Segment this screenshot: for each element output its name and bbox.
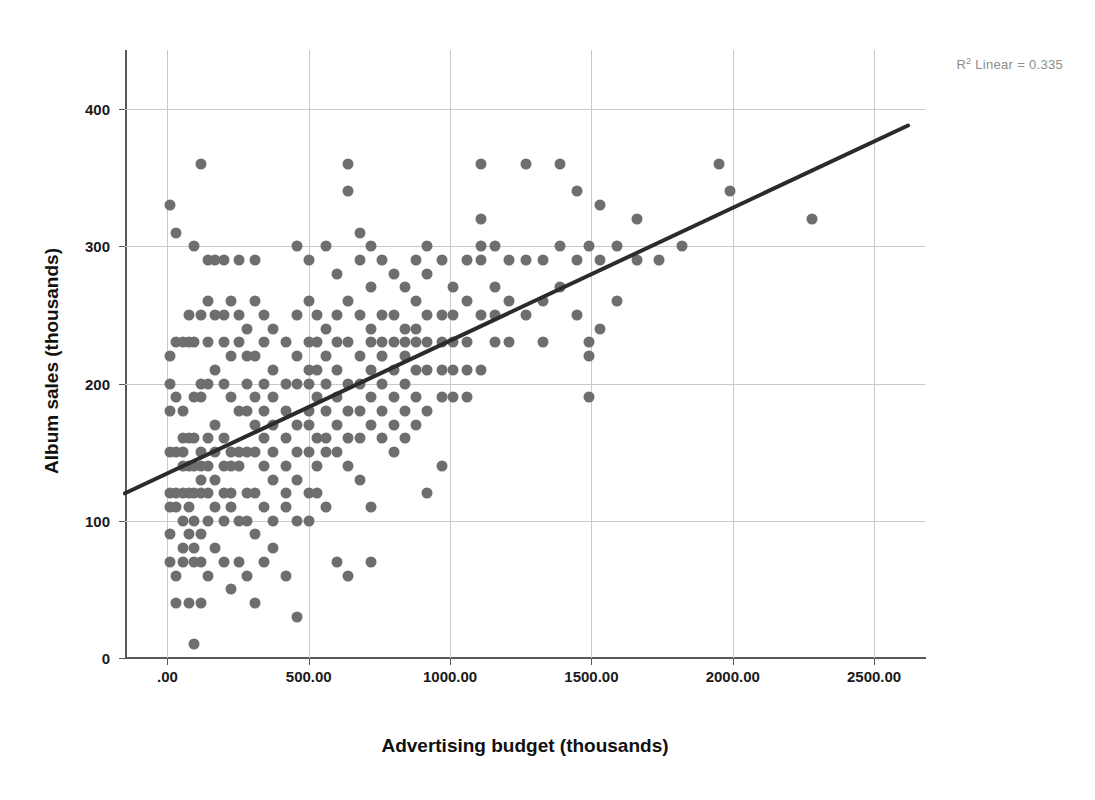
data-point bbox=[436, 254, 447, 265]
y-tick-label: 0 bbox=[0, 650, 110, 667]
data-point bbox=[234, 337, 245, 348]
data-point bbox=[189, 337, 200, 348]
data-point bbox=[281, 337, 292, 348]
data-point bbox=[196, 598, 207, 609]
data-point bbox=[226, 351, 237, 362]
data-point bbox=[203, 378, 214, 389]
data-point bbox=[303, 254, 314, 265]
x-tick-label: .00 bbox=[157, 668, 178, 685]
data-point bbox=[320, 323, 331, 334]
data-point bbox=[189, 433, 200, 444]
data-point bbox=[343, 158, 354, 169]
data-point bbox=[354, 254, 365, 265]
data-point bbox=[377, 309, 388, 320]
data-point bbox=[183, 598, 194, 609]
data-point bbox=[377, 351, 388, 362]
data-point bbox=[377, 433, 388, 444]
data-point bbox=[365, 419, 376, 430]
data-point bbox=[170, 502, 181, 513]
x-tick-mark bbox=[450, 659, 451, 665]
data-point bbox=[354, 227, 365, 238]
data-point bbox=[504, 337, 515, 348]
y-tick-mark bbox=[119, 246, 125, 247]
data-point bbox=[303, 515, 314, 526]
data-point bbox=[365, 556, 376, 567]
data-point bbox=[343, 296, 354, 307]
data-point bbox=[447, 392, 458, 403]
data-point bbox=[312, 392, 323, 403]
data-point bbox=[170, 570, 181, 581]
data-point bbox=[332, 556, 343, 567]
data-point bbox=[196, 529, 207, 540]
data-point bbox=[354, 309, 365, 320]
data-point bbox=[196, 556, 207, 567]
data-point bbox=[399, 337, 410, 348]
data-point bbox=[281, 502, 292, 513]
data-point bbox=[312, 460, 323, 471]
data-point bbox=[411, 254, 422, 265]
data-point bbox=[504, 254, 515, 265]
data-point bbox=[218, 337, 229, 348]
data-point bbox=[218, 433, 229, 444]
data-point bbox=[354, 433, 365, 444]
data-point bbox=[399, 323, 410, 334]
data-point bbox=[183, 309, 194, 320]
data-point bbox=[210, 419, 221, 430]
x-tick-label: 500.00 bbox=[286, 668, 332, 685]
x-tick-label: 2000.00 bbox=[706, 668, 760, 685]
data-point bbox=[411, 419, 422, 430]
x-tick-mark bbox=[591, 659, 592, 665]
x-tick-label: 2500.00 bbox=[847, 668, 901, 685]
data-point bbox=[210, 364, 221, 375]
data-point bbox=[504, 296, 515, 307]
data-point bbox=[303, 419, 314, 430]
data-point bbox=[258, 556, 269, 567]
data-point bbox=[572, 186, 583, 197]
data-point bbox=[268, 364, 279, 375]
data-point bbox=[462, 296, 473, 307]
data-point bbox=[343, 570, 354, 581]
data-point bbox=[292, 474, 303, 485]
data-point bbox=[210, 502, 221, 513]
data-point bbox=[203, 488, 214, 499]
data-point bbox=[226, 488, 237, 499]
data-point bbox=[365, 282, 376, 293]
data-point bbox=[292, 419, 303, 430]
data-point bbox=[177, 405, 188, 416]
data-point bbox=[268, 543, 279, 554]
data-point bbox=[258, 309, 269, 320]
data-point bbox=[189, 543, 200, 554]
data-point bbox=[399, 282, 410, 293]
data-point bbox=[411, 323, 422, 334]
data-point bbox=[210, 474, 221, 485]
data-point bbox=[399, 433, 410, 444]
x-tick-mark bbox=[733, 659, 734, 665]
r-squared-suffix: Linear = 0.335 bbox=[971, 57, 1063, 72]
data-point bbox=[292, 515, 303, 526]
data-point bbox=[250, 296, 261, 307]
data-point bbox=[250, 254, 261, 265]
data-point bbox=[555, 241, 566, 252]
data-point bbox=[447, 337, 458, 348]
data-point bbox=[250, 392, 261, 403]
data-point bbox=[303, 378, 314, 389]
data-point bbox=[218, 309, 229, 320]
data-point bbox=[422, 337, 433, 348]
data-point bbox=[476, 364, 487, 375]
data-point bbox=[226, 296, 237, 307]
data-point bbox=[312, 337, 323, 348]
data-point bbox=[399, 351, 410, 362]
gridline-vertical bbox=[874, 50, 875, 658]
data-point bbox=[250, 529, 261, 540]
data-point bbox=[611, 296, 622, 307]
gridline-vertical bbox=[309, 50, 310, 658]
data-point bbox=[343, 433, 354, 444]
gridline-horizontal bbox=[125, 246, 925, 247]
data-point bbox=[268, 392, 279, 403]
data-point bbox=[250, 488, 261, 499]
data-point bbox=[436, 364, 447, 375]
data-point bbox=[196, 474, 207, 485]
data-point bbox=[422, 405, 433, 416]
data-point bbox=[411, 296, 422, 307]
r-squared-annotation: R2 Linear = 0.335 bbox=[956, 56, 1063, 72]
